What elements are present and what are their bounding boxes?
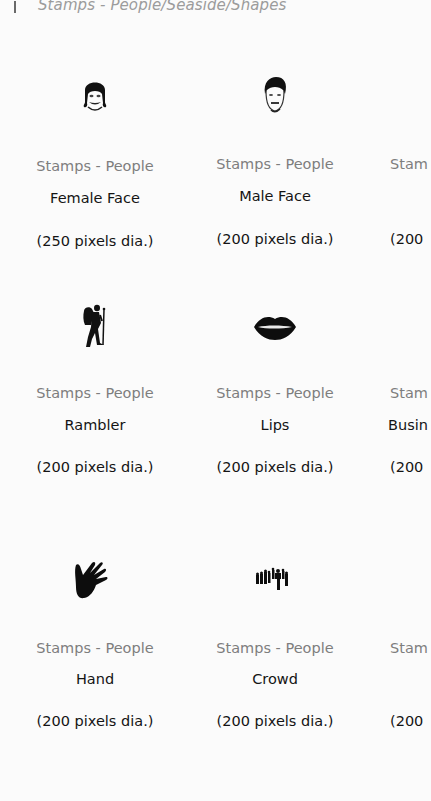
rambler-hiker-icon xyxy=(80,303,110,349)
stamp-category: Stamps - People xyxy=(190,385,360,401)
stamp-item-partial-business[interactable]: Stam Busin (200 xyxy=(390,285,431,525)
stamp-category: Stam xyxy=(390,640,431,656)
stamp-name: Crowd xyxy=(190,671,360,687)
stamp-item-lips[interactable]: Stamps - People Lips (200 pixels dia.) xyxy=(190,285,360,525)
lips-icon xyxy=(252,313,298,341)
stamp-name: Rambler xyxy=(10,417,180,433)
crowd-icon xyxy=(254,567,296,591)
stamp-category: Stam xyxy=(390,385,431,401)
stamp-category: Stamps - People xyxy=(10,640,180,656)
stamp-name: Lips xyxy=(190,417,360,433)
stamp-size: (200 pixels dia.) xyxy=(190,713,360,729)
stamp-size: (200 xyxy=(390,713,431,729)
stamp-item-partial[interactable]: Stam (200 xyxy=(390,60,431,300)
stamp-size: (200 xyxy=(390,459,431,475)
stamp-category: Stamps - People xyxy=(10,158,180,174)
stamp-size: (200 pixels dia.) xyxy=(10,459,180,475)
stamp-category: Stamps - People xyxy=(190,156,360,172)
stamp-item-hand[interactable]: Stamps - People Hand (200 pixels dia.) xyxy=(10,545,180,785)
female-face-icon xyxy=(78,76,112,116)
stamp-size: (250 pixels dia.) xyxy=(10,233,180,249)
stamp-name: Busin xyxy=(388,417,431,433)
stamp-item-crowd[interactable]: Stamps - People Crowd (200 pixels dia.) xyxy=(190,545,360,785)
hand-icon xyxy=(72,557,118,601)
stamp-size: (200 xyxy=(390,231,431,247)
male-face-icon xyxy=(258,74,292,116)
stamp-item-partial[interactable]: Stam (200 xyxy=(390,545,431,785)
stamp-item-male-face[interactable]: Stamps - People Male Face (200 pixels di… xyxy=(190,60,360,300)
stamp-name: Hand xyxy=(10,671,180,687)
stamp-name: Male Face xyxy=(190,188,360,204)
stamp-name: Female Face xyxy=(10,190,180,206)
stamp-size: (200 pixels dia.) xyxy=(190,231,360,247)
stamp-grid: Stamps - People Female Face (250 pixels … xyxy=(0,0,431,801)
stamp-category: Stamps - People xyxy=(190,640,360,656)
stamp-item-female-face[interactable]: Stamps - People Female Face (250 pixels … xyxy=(10,60,180,300)
stamp-size: (200 pixels dia.) xyxy=(10,713,180,729)
stamp-category: Stamps - People xyxy=(10,385,180,401)
stamp-size: (200 pixels dia.) xyxy=(190,459,360,475)
stamp-category: Stam xyxy=(390,156,431,172)
stamp-item-rambler[interactable]: Stamps - People Rambler (200 pixels dia.… xyxy=(10,285,180,525)
